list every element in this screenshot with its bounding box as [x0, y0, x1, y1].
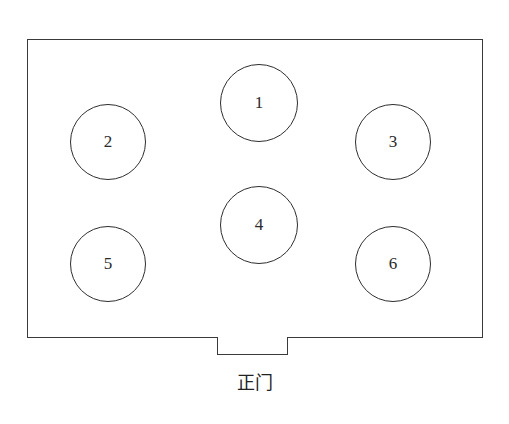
table-3: 3 [355, 104, 431, 180]
table-2-label: 2 [104, 132, 113, 152]
table-3-label: 3 [389, 132, 398, 152]
table-6: 6 [355, 226, 431, 302]
main-door [217, 337, 288, 355]
table-5-label: 5 [104, 254, 113, 274]
table-2: 2 [70, 104, 146, 180]
table-1: 1 [220, 64, 298, 142]
table-1-label: 1 [255, 93, 264, 113]
table-4: 4 [220, 186, 298, 264]
table-4-label: 4 [255, 215, 264, 235]
main-door-label: 正门 [205, 368, 305, 394]
table-6-label: 6 [389, 254, 398, 274]
table-5: 5 [70, 226, 146, 302]
